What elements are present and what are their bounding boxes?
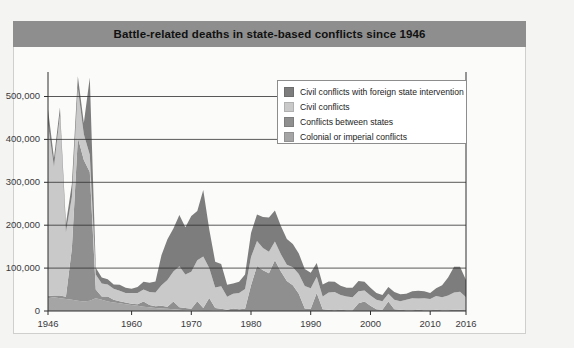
- y-tick-label: 200,000: [0, 219, 40, 230]
- x-tick-label: 1990: [288, 318, 334, 329]
- legend-label: Conflicts between states: [300, 117, 393, 127]
- x-tick-label: 2000: [347, 318, 393, 329]
- chart-title-bar: Battle-related deaths in state-based con…: [13, 21, 526, 47]
- legend-item-colonial: Colonial or imperial conflicts: [284, 130, 461, 144]
- page-title: Battle-related deaths in state-based con…: [114, 28, 426, 40]
- x-tick-label: 1960: [109, 318, 155, 329]
- chart-panel: [13, 21, 526, 334]
- chart-legend: Civil conflicts with foreign state inter…: [277, 80, 467, 144]
- y-tick-label: 300,000: [0, 176, 40, 187]
- chart-screenshot: Battle-related deaths in state-based con…: [0, 0, 574, 348]
- x-tick-label: 1980: [228, 318, 274, 329]
- legend-item-civil: Civil conflicts: [284, 100, 461, 114]
- y-tick-label: 0: [0, 305, 40, 316]
- legend-label: Civil conflicts with foreign state inter…: [300, 87, 464, 97]
- x-tick-label: 1970: [168, 318, 214, 329]
- legend-item-civil-intervention: Civil conflicts with foreign state inter…: [284, 85, 461, 99]
- y-tick-label: 100,000: [0, 262, 40, 273]
- legend-label: Colonial or imperial conflicts: [300, 132, 407, 142]
- legend-swatch-icon: [284, 102, 294, 112]
- legend-swatch-icon: [284, 87, 294, 97]
- y-tick-label: 500,000: [0, 90, 40, 101]
- x-tick-label: 2016: [443, 318, 489, 329]
- legend-swatch-icon: [284, 117, 294, 127]
- legend-item-interstate: Conflicts between states: [284, 115, 461, 129]
- y-tick-label: 400,000: [0, 133, 40, 144]
- x-tick-label: 1946: [25, 318, 71, 329]
- legend-swatch-icon: [284, 132, 294, 142]
- legend-label: Civil conflicts: [300, 102, 350, 112]
